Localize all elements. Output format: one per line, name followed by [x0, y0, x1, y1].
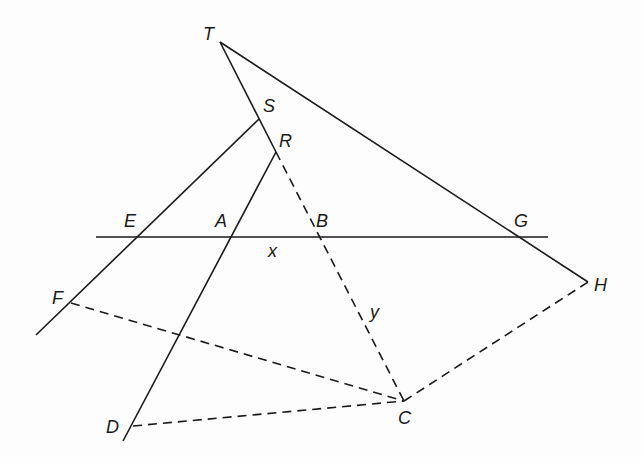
label-G: G — [514, 211, 528, 231]
label-B: B — [316, 211, 328, 231]
label-C: C — [398, 408, 412, 428]
label-F: F — [52, 288, 64, 308]
geometry-diagram: T S R E A B G H F C D x y — [0, 0, 641, 457]
dashed-line-FC — [71, 303, 404, 401]
label-H: H — [594, 275, 608, 295]
label-T: T — [203, 24, 216, 44]
dashed-line-CH — [404, 282, 588, 401]
label-D: D — [106, 417, 119, 437]
label-variable-x: x — [267, 241, 278, 261]
label-A: A — [214, 211, 227, 231]
label-E: E — [124, 211, 137, 231]
line-RD — [123, 152, 276, 441]
label-variable-y: y — [368, 302, 380, 322]
label-R: R — [279, 131, 292, 151]
diagram-svg: T S R E A B G H F C D x y — [0, 0, 641, 457]
dashed-line-RC — [276, 152, 404, 401]
label-S: S — [263, 96, 275, 116]
dashed-line-DC — [133, 401, 404, 426]
